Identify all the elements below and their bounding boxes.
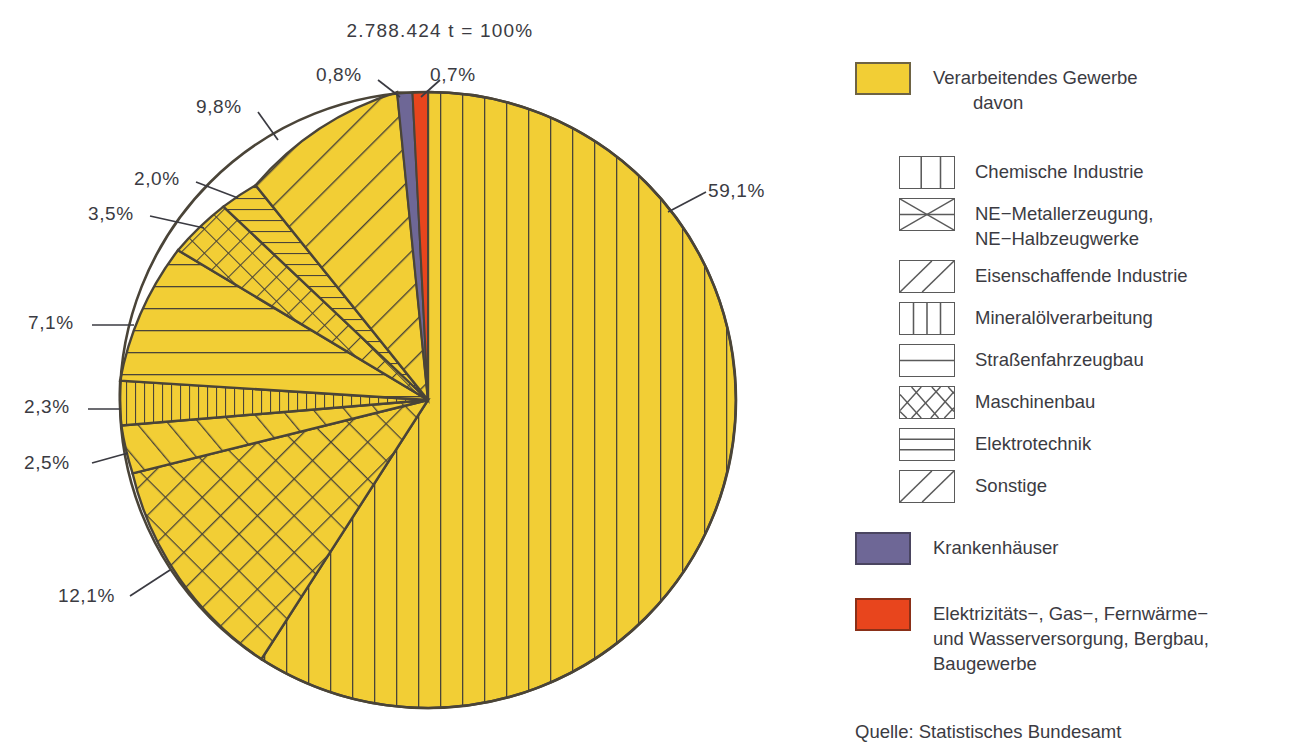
legend-label-mineraloelverarbeitung: Mineralölverarbeitung (975, 302, 1153, 330)
legend-swatch-ne-metallerzeugung (899, 198, 955, 231)
legend-swatch-maschinenbau (899, 386, 955, 419)
pie-chart-svg (0, 0, 840, 738)
source-note: Quelle: Statistisches Bundesamt (855, 721, 1295, 743)
legend-swatch-energie-bergbau-bau (855, 598, 911, 631)
legend-row-maschinenbau[interactable]: Maschinenbau (899, 386, 1295, 419)
legend-label-ne-line1: NE−Metallerzeugung, (975, 203, 1153, 224)
legend-label-maschinenbau: Maschinenbau (975, 386, 1095, 414)
legend-label-krankenhaeuser: Krankenhäuser (933, 532, 1058, 560)
label-9-8: 9,8% (196, 96, 242, 118)
leader-59-1 (668, 192, 706, 212)
label-7-1: 7,1% (28, 312, 74, 334)
legend-row-sonstige[interactable]: Sonstige (899, 470, 1295, 503)
pie-slices (120, 92, 736, 708)
legend-row-eisenschaffende-industrie[interactable]: Eisenschaffende Industrie (899, 260, 1295, 293)
legend-subitems: Chemische Industrie NE−Metallerzeugung, … (899, 156, 1295, 503)
legend-label-strassenfahrzeugbau: Straßenfahrzeugbau (975, 344, 1144, 372)
legend-label-davon: davon (933, 90, 1138, 115)
legend-swatch-eisenschaffende-industrie (899, 260, 955, 293)
legend-swatch-mineraloelverarbeitung (899, 302, 955, 335)
legend-label-main-text: Verarbeitendes Gewerbe (933, 67, 1138, 88)
legend-label-energie-line1: Elektrizitäts−, Gas−, Fernwärme− (933, 603, 1208, 624)
legend-row-mineraloelverarbeitung[interactable]: Mineralölverarbeitung (899, 302, 1295, 335)
legend-row-krankenhaeuser[interactable]: Krankenhäuser (855, 532, 1295, 565)
leader-2-5 (92, 453, 128, 463)
legend-label-eisenschaffende-industrie: Eisenschaffende Industrie (975, 260, 1188, 288)
label-12-1: 12,1% (58, 585, 115, 607)
label-59-1: 59,1% (708, 180, 765, 202)
legend-label-energie-line3: Baugewerbe (933, 653, 1037, 674)
leader-3-5 (150, 216, 204, 228)
legend-swatch-strassenfahrzeugbau (899, 344, 955, 377)
label-2-0: 2,0% (134, 168, 180, 190)
legend-label-sonstige: Sonstige (975, 470, 1047, 498)
legend-label-chemische-industrie: Chemische Industrie (975, 156, 1144, 184)
legend-swatch-krankenhaeuser (855, 532, 911, 565)
label-2-5: 2,5% (24, 452, 70, 474)
legend-swatch-sonstige (899, 470, 955, 503)
legend-row-chemische-industrie[interactable]: Chemische Industrie (899, 156, 1295, 189)
legend-label-ne-metallerzeugung: NE−Metallerzeugung, NE−Halbzeugwerke (975, 198, 1153, 251)
legend-row-strassenfahrzeugbau[interactable]: Straßenfahrzeugbau (899, 344, 1295, 377)
legend-row-verarbeitendes-gewerbe[interactable]: Verarbeitendes Gewerbe davon (855, 62, 1295, 115)
label-0-7: 0,7% (430, 64, 476, 86)
pie-chart-area: 59,1% 9,8% 2,0% 3,5% 7,1% 2,3% 2,5% 12,1… (0, 0, 840, 738)
legend-row-elektrotechnik[interactable]: Elektrotechnik (899, 428, 1295, 461)
legend-row-energie-bergbau-bau[interactable]: Elektrizitäts−, Gas−, Fernwärme− und Was… (855, 598, 1295, 676)
legend-swatch-chemische-industrie (899, 156, 955, 189)
legend-swatch-elektrotechnik (899, 428, 955, 461)
label-2-3: 2,3% (24, 396, 70, 418)
legend-label-elektrotechnik: Elektrotechnik (975, 428, 1091, 456)
label-3-5: 3,5% (88, 203, 134, 225)
label-0-8: 0,8% (316, 64, 362, 86)
legend-label-energie-bergbau-bau: Elektrizitäts−, Gas−, Fernwärme− und Was… (933, 598, 1209, 676)
legend: Verarbeitendes Gewerbe davon Chemische I… (855, 62, 1295, 722)
legend-label-ne-line2: NE−Halbzeugwerke (975, 228, 1139, 249)
leader-12-1 (130, 570, 170, 596)
legend-label-energie-line2: und Wasserversorgung, Bergbau, (933, 628, 1209, 649)
legend-label-verarbeitendes-gewerbe: Verarbeitendes Gewerbe davon (933, 62, 1138, 115)
legend-row-ne-metallerzeugung[interactable]: NE−Metallerzeugung, NE−Halbzeugwerke (899, 198, 1295, 251)
legend-swatch-verarbeitendes-gewerbe (855, 62, 911, 95)
